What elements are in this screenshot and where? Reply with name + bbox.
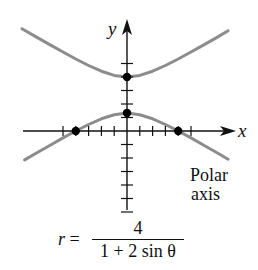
y-axis-label: y [106, 18, 117, 39]
x-axis-label: x [237, 120, 247, 141]
point-marker [72, 127, 80, 135]
point-marker [174, 127, 182, 135]
point-marker [123, 73, 131, 81]
equation-r: r [58, 229, 65, 249]
equation-numerator: 4 [92, 218, 184, 239]
equation-denominator: 1 + 2 sin θ [92, 241, 184, 261]
hyperbola-curves [22, 29, 228, 160]
equation-lhs: r = [58, 229, 80, 250]
upper-branch-curve [22, 29, 228, 77]
point-marker [123, 109, 131, 117]
polar-axis-label-line2: axis [191, 184, 220, 204]
equation-fraction: 4 1 + 2 sin θ [92, 218, 184, 261]
fraction-bar [92, 239, 184, 240]
polar-axis-label-line1: Polar [190, 165, 228, 185]
